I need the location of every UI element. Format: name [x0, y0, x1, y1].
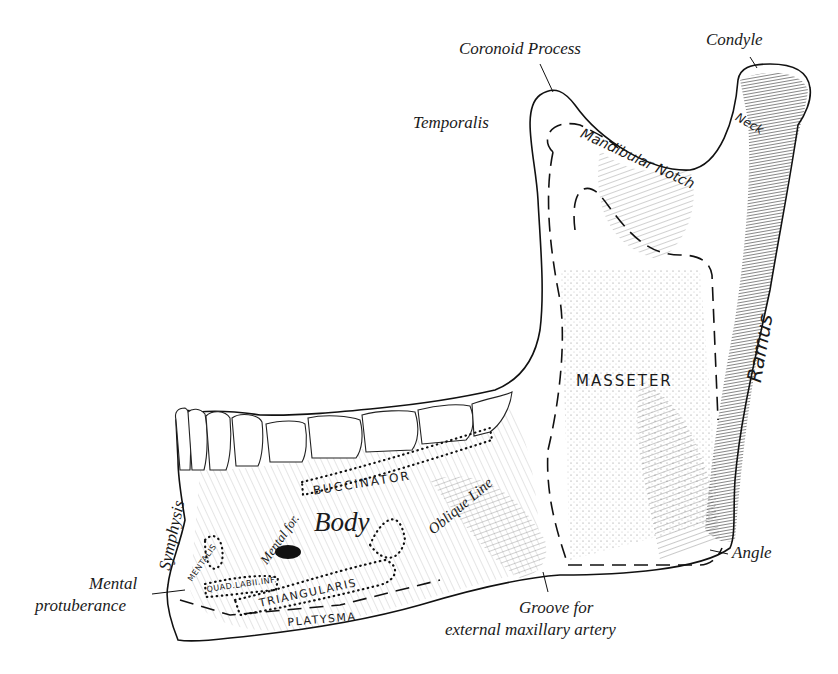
mandible-diagram: Coronoid Process Condyle Temporalis Mand… [0, 0, 838, 674]
label-mental-protuberance-1: Mental [89, 574, 137, 594]
label-masseter: MASSETER [576, 372, 673, 390]
label-condyle: Condyle [706, 30, 763, 50]
label-mental-protuberance-2: protuberance [35, 596, 126, 616]
mandible-illustration [0, 0, 838, 674]
label-groove-1: Groove for [519, 598, 593, 618]
label-coronoid-process: Coronoid Process [459, 39, 581, 59]
label-groove-2: external maxillary artery [445, 620, 616, 640]
label-temporalis: Temporalis [413, 113, 489, 133]
label-angle: Angle [732, 543, 772, 563]
label-body: Body [314, 507, 369, 538]
